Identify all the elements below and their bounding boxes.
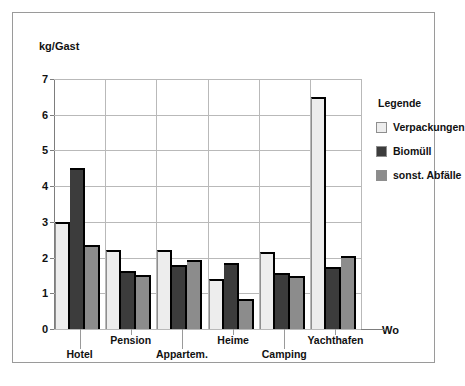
legend-label-biomuell: Biomüll <box>393 146 432 157</box>
legend-swatch-sonstige-abfaelle <box>376 170 387 181</box>
y-tick-label: 6 <box>42 109 48 120</box>
y-tick-label: 0 <box>42 324 48 335</box>
bar-2-2 <box>187 260 202 329</box>
x-axis-label-yachthafen: Yachthafen <box>307 335 363 346</box>
y-tick-mark <box>50 79 54 80</box>
x-axis-label-pension: Pension <box>110 335 151 346</box>
y-tick-mark <box>50 293 54 294</box>
y-tick-label: 2 <box>42 252 48 263</box>
legend-title: Legende <box>378 97 464 109</box>
bar-1-1 <box>121 271 136 329</box>
legend-item-biomuell: Biomüll <box>376 146 464 157</box>
x-tick-mark <box>284 329 285 349</box>
y-axis-title: kg/Gast <box>39 40 79 52</box>
bar-4-0 <box>260 252 275 329</box>
chart-legend: Legende Verpackungen Biomüll sonst. Abfä… <box>376 97 464 194</box>
gridline-horizontal <box>54 329 361 330</box>
legend-label-verpackungen: Verpackungen <box>393 122 465 133</box>
bar-5-0 <box>311 97 326 329</box>
plot-area: 01234567 <box>54 79 361 329</box>
y-tick-mark <box>50 115 54 116</box>
bar-0-0 <box>55 222 70 329</box>
bar-2-1 <box>172 265 187 329</box>
y-tick-mark <box>50 329 54 330</box>
x-axis-label-hotel: Hotel <box>66 349 92 360</box>
legend-swatch-verpackungen <box>376 122 387 133</box>
x-tick-mark <box>182 329 183 349</box>
bar-3-0 <box>209 279 224 329</box>
y-tick-label: 7 <box>42 74 48 85</box>
x-axis-label-camping: Camping <box>262 349 307 360</box>
legend-swatch-biomuell <box>376 146 387 157</box>
x-tick-mark <box>80 329 81 349</box>
y-tick-mark <box>50 186 54 187</box>
x-axis-label-heime: Heime <box>217 335 249 346</box>
bar-5-1 <box>326 267 341 330</box>
legend-label-sonstige-abfaelle: sonst. Abfälle <box>393 170 461 181</box>
bar-0-1 <box>70 168 85 329</box>
y-tick-mark <box>50 222 54 223</box>
y-tick-label: 3 <box>42 216 48 227</box>
x-axis-title: Wo <box>382 324 399 336</box>
bar-1-2 <box>136 275 151 329</box>
bar-4-1 <box>275 273 290 329</box>
bar-5-2 <box>341 256 356 329</box>
y-tick-label: 1 <box>42 288 48 299</box>
bar-3-2 <box>239 299 254 329</box>
legend-item-sonstige-abfaelle: sonst. Abfälle <box>376 170 464 181</box>
gridline-vertical <box>361 79 362 329</box>
bar-3-1 <box>224 263 239 329</box>
y-tick-mark <box>50 258 54 259</box>
x-axis-label-appartem: Appartem. <box>156 349 208 360</box>
chart-frame: kg/Gast Wo 01234567 Legende Verpackungen… <box>12 12 435 363</box>
y-tick-label: 4 <box>42 181 48 192</box>
y-tick-label: 5 <box>42 145 48 156</box>
y-tick-mark <box>50 150 54 151</box>
legend-item-verpackungen: Verpackungen <box>376 122 464 133</box>
bar-1-0 <box>106 250 121 329</box>
bar-0-2 <box>85 245 100 329</box>
bar-2-0 <box>157 250 172 329</box>
bar-4-2 <box>290 276 305 329</box>
